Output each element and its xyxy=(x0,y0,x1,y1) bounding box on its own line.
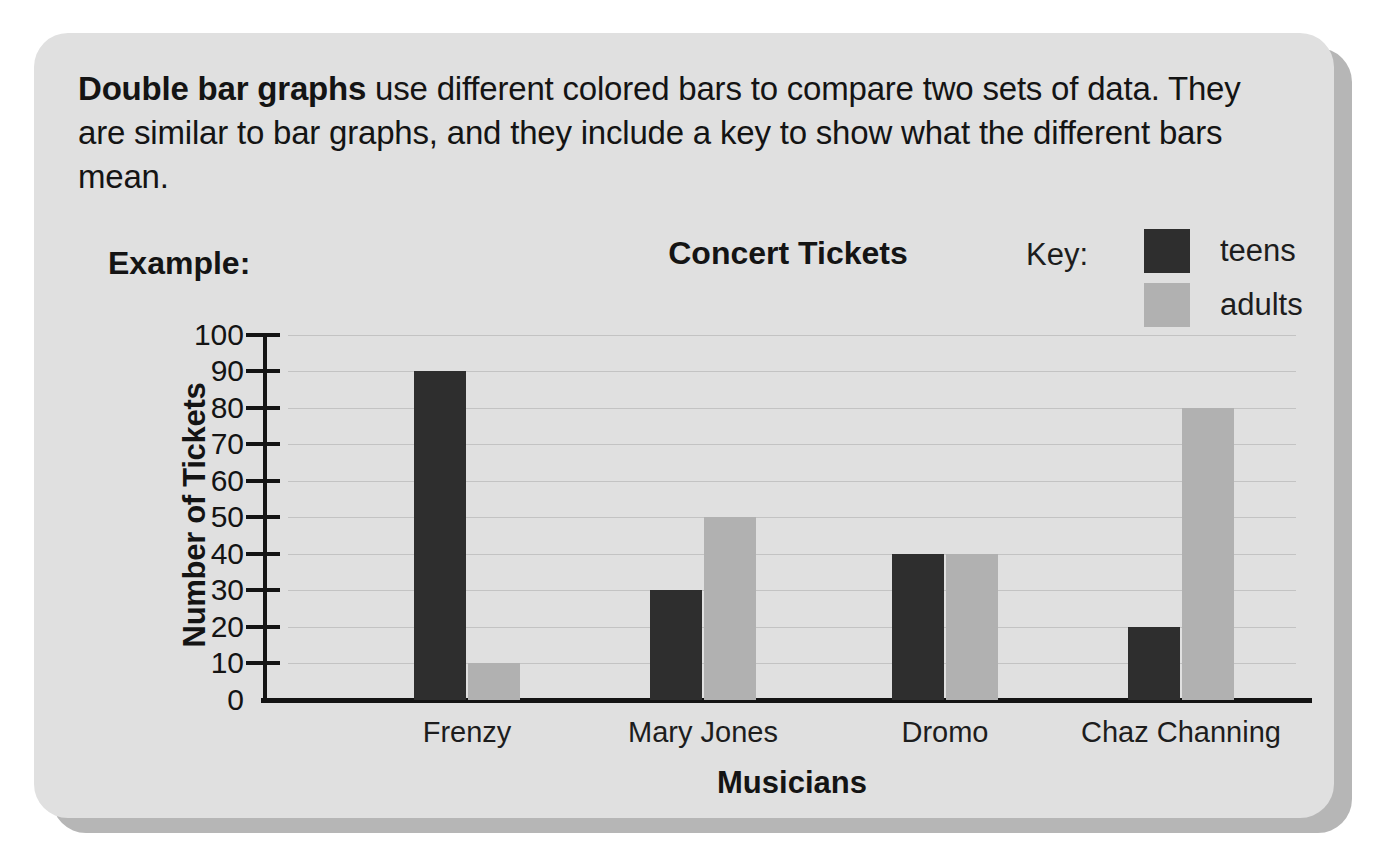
bar-teens xyxy=(414,371,466,700)
y-tick-mark xyxy=(246,661,280,665)
y-tick-label: 0 xyxy=(227,683,244,717)
legend-label-adults: adults xyxy=(1220,287,1303,323)
y-tick-label: 20 xyxy=(211,610,244,644)
legend-item-adults: adults xyxy=(1144,283,1303,327)
bar-adults xyxy=(1182,408,1234,700)
y-tick-label: 80 xyxy=(211,391,244,425)
bar-teens xyxy=(650,590,702,700)
y-tick-label: 70 xyxy=(211,427,244,461)
y-tick-mark xyxy=(246,625,280,629)
plot-canvas: 1009080706050403020100 FrenzyMary JonesD… xyxy=(288,335,1296,700)
y-tick-label: 50 xyxy=(211,500,244,534)
lesson-card: Double bar graphs use different colored … xyxy=(34,33,1334,818)
lesson-intro-paragraph: Double bar graphs use different colored … xyxy=(78,67,1290,199)
y-tick-mark xyxy=(246,515,280,519)
example-label: Example: xyxy=(108,245,250,282)
legend-item-teens: teens xyxy=(1144,229,1296,273)
gridline xyxy=(288,335,1296,336)
y-tick-label: 10 xyxy=(211,646,244,680)
bar-teens xyxy=(892,554,944,700)
bar-teens xyxy=(1128,627,1180,700)
lesson-intro-bold: Double bar graphs xyxy=(78,70,366,107)
y-tick-label: 90 xyxy=(211,354,244,388)
y-axis-title: Number of Tickets xyxy=(177,350,213,680)
bar-adults xyxy=(704,517,756,700)
y-tick-mark xyxy=(246,479,280,483)
legend-swatch-adults xyxy=(1144,283,1190,327)
y-tick-mark xyxy=(246,588,280,592)
y-tick-mark xyxy=(246,333,280,337)
legend-swatch-teens xyxy=(1144,229,1190,273)
legend-label-teens: teens xyxy=(1220,233,1296,269)
legend-title: Key: xyxy=(1026,237,1088,273)
y-tick-label: 60 xyxy=(211,464,244,498)
y-tick-mark xyxy=(246,406,280,410)
x-category-label: Chaz Channing xyxy=(1031,716,1331,749)
y-tick-label: 40 xyxy=(211,537,244,571)
bar-adults xyxy=(946,554,998,700)
chart-header: Example: Concert Tickets Key: teens adul… xyxy=(78,217,1290,325)
y-tick-mark xyxy=(246,552,280,556)
bar-adults xyxy=(468,663,520,700)
y-tick-mark xyxy=(246,369,280,373)
y-tick-label: 30 xyxy=(211,573,244,607)
y-tick-mark xyxy=(246,442,280,446)
x-axis-title: Musicians xyxy=(288,765,1296,801)
chart-title: Concert Tickets xyxy=(598,235,978,272)
chart-plot-area: Number of Tickets 1009080706050403020100… xyxy=(78,327,1290,797)
y-tick-label: 100 xyxy=(194,318,244,352)
